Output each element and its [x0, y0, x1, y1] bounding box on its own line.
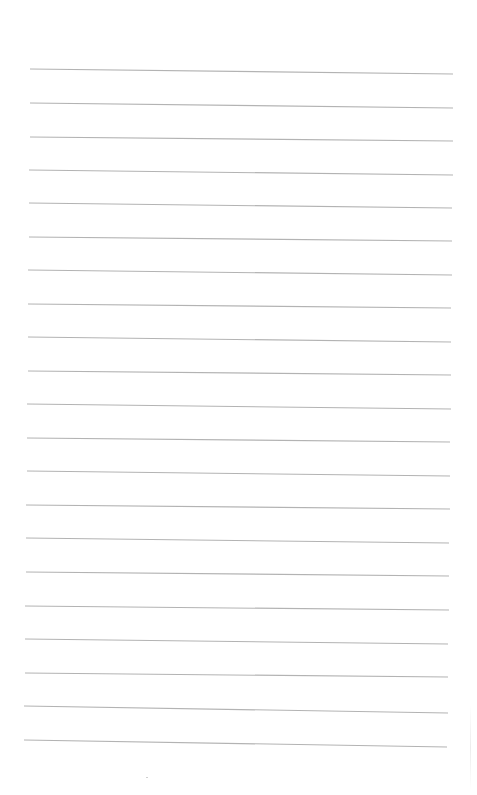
ruled-line: [25, 639, 448, 644]
ruled-line: [30, 103, 453, 108]
scan-edge-shadow: [470, 705, 471, 790]
ruled-line: [26, 538, 449, 543]
ruled-line: [28, 371, 451, 375]
ruled-lines: [0, 0, 477, 795]
ruled-line: [30, 69, 453, 74]
ruled-line: [29, 170, 453, 175]
ruled-line: [25, 606, 449, 610]
ruled-line: [26, 572, 449, 576]
lined-paper-page: [0, 0, 477, 795]
scan-speck: [146, 777, 148, 778]
ruled-line: [27, 404, 451, 409]
ruled-line: [28, 270, 452, 275]
ruled-line: [27, 438, 450, 442]
ruled-line: [25, 673, 448, 677]
ruled-line: [26, 505, 450, 509]
ruled-line: [28, 337, 451, 342]
ruled-line: [24, 706, 448, 713]
ruled-line: [24, 740, 447, 747]
ruled-line: [27, 471, 450, 476]
ruled-line: [29, 237, 452, 241]
ruled-line: [29, 203, 452, 208]
ruled-line: [28, 304, 451, 308]
ruled-line: [30, 137, 453, 141]
